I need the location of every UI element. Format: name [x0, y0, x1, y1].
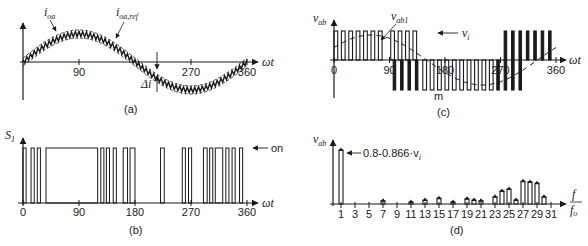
bar-cap-icon [437, 196, 442, 200]
x-tick-label: 270 [182, 206, 200, 218]
x-tick-label: 25 [503, 208, 515, 220]
harmonic-bar [339, 150, 343, 204]
negative-pulse [475, 60, 479, 90]
svg-text:0.8-0.866·vi: 0.8-0.866·vi [363, 147, 421, 162]
label-i-oa: ioa [44, 5, 56, 31]
x-tick-label: 21 [475, 208, 487, 220]
harmonic-bar [542, 197, 546, 204]
positive-pulse [406, 31, 410, 60]
x-tick-label: 360 [238, 206, 256, 218]
svg-text:vi: vi [462, 26, 470, 42]
on-pulse [232, 148, 235, 203]
x-tick-label: 7 [380, 208, 386, 220]
panel-b-y-label: S1 [5, 128, 15, 144]
x-tick-label: 90 [73, 66, 85, 78]
negative-pulse [512, 60, 514, 90]
panel-d-x-label: f fo [570, 187, 582, 218]
svg-text:on: on [271, 142, 283, 154]
on-pulse [189, 148, 192, 203]
bar-cap-icon [521, 179, 526, 183]
panel-a: 90270360 ωt ioa ioa,ref Δi (a) [20, 5, 274, 115]
x-tick-label: 0 [331, 64, 337, 76]
bar-cap-icon [493, 194, 498, 198]
panel-a-x-label: ωt [262, 55, 274, 69]
fundamental-annotation: 0.8-0.866·vi [347, 147, 421, 162]
negative-pulse [467, 60, 471, 90]
svg-text:ioa,ref: ioa,ref [116, 5, 140, 21]
label-v-i: vi [438, 26, 470, 42]
harmonic-bar [528, 182, 532, 204]
on-pulse [101, 148, 104, 203]
x-tick-label: 19 [461, 208, 473, 220]
on-pulse [161, 148, 165, 203]
panel-c-x-label: ωt [569, 53, 581, 67]
positive-pulse [512, 31, 514, 60]
positive-pulse [413, 31, 417, 60]
bar-cap-icon [465, 196, 470, 200]
panel-c: 090180270360 vab ωt vab1 vi m (c) [313, 9, 581, 118]
panel-d: 135791113151719212325272931 vab 0.8-0.86… [313, 132, 582, 236]
on-pulse [37, 148, 40, 203]
x-tick-label: 270 [491, 64, 509, 76]
panel-b-caption: (b) [129, 224, 142, 236]
x-tick-label: 90 [383, 64, 395, 76]
x-tick-label: 180 [126, 206, 144, 218]
x-tick-label: 15 [433, 208, 445, 220]
panel-d-caption: (d) [450, 224, 463, 236]
positive-pulse [541, 31, 543, 60]
on-pulse [113, 148, 116, 203]
svg-text:f: f [572, 187, 577, 201]
negative-pulse [415, 60, 417, 90]
svg-text:Δi: Δi [140, 77, 151, 91]
on-pulse [226, 148, 229, 203]
on-pulse [46, 148, 98, 203]
on-pulse [182, 148, 185, 203]
positive-pulse [519, 31, 521, 60]
label-i-oa-ref: ioa,ref [116, 5, 140, 38]
bar-cap-icon [479, 198, 484, 202]
x-tick-label: 23 [489, 208, 501, 220]
bar-cap-icon [381, 198, 386, 202]
negative-pulse [519, 60, 521, 90]
x-tick-label: 13 [419, 208, 431, 220]
x-tick-label: 1 [338, 208, 344, 220]
negative-pulse [423, 60, 427, 90]
x-tick-label: 17 [447, 208, 459, 220]
x-tick-label: 9 [394, 208, 400, 220]
x-tick-label: 31 [545, 208, 557, 220]
x-tick-label: 27 [517, 208, 529, 220]
bar-cap-icon [514, 198, 519, 202]
x-tick-label: 270 [182, 66, 200, 78]
positive-pulse [526, 31, 528, 60]
positive-pulse [391, 31, 395, 60]
panel-d-ticks: 135791113151719212325272931 [338, 202, 557, 220]
harmonic-bar [507, 189, 511, 204]
on-pulse [123, 148, 127, 203]
x-tick-label: 3 [352, 208, 358, 220]
harmonic-bar [500, 191, 504, 204]
harmonic-bar [521, 181, 525, 204]
lower-band [23, 38, 247, 94]
panel-b: 090180270360 S1 ωt on (b) [5, 128, 283, 236]
x-tick-label: 180 [436, 64, 454, 76]
positive-pulse [364, 31, 368, 60]
bar-cap-icon [423, 198, 428, 202]
bar-cap-icon [500, 189, 505, 193]
on-pulse [31, 148, 34, 203]
positive-pulse [504, 31, 506, 60]
on-pulse [23, 148, 26, 203]
label-m: m [434, 90, 443, 102]
panel-b-switching-pulses [23, 148, 243, 203]
on-pulse [203, 148, 207, 203]
negative-pulse [460, 60, 464, 90]
on-pulse [130, 148, 135, 203]
on-level-annotation: on [253, 142, 283, 154]
svg-text:ioa: ioa [44, 5, 55, 21]
positive-pulse [549, 31, 551, 60]
on-pulse [106, 148, 109, 203]
positive-pulse [356, 31, 360, 60]
harmonic-bar [535, 183, 539, 204]
x-tick-label: 29 [531, 208, 543, 220]
negative-pulse [401, 60, 403, 90]
bar-cap-icon [535, 181, 540, 185]
